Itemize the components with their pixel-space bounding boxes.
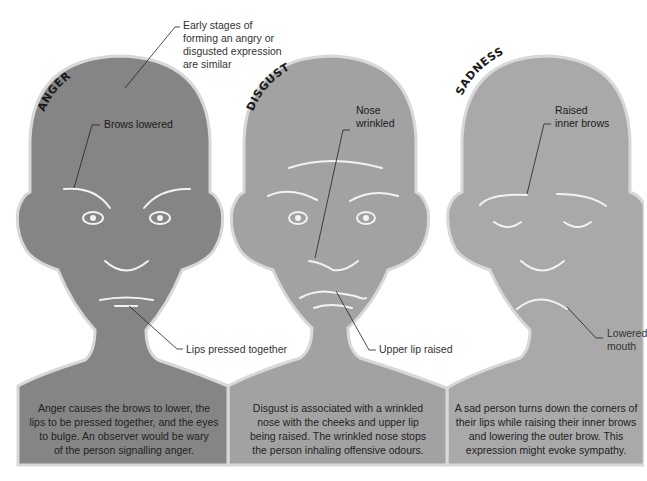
desc-line: of the person signalling anger. [22,443,226,457]
shared-callout-line: are similar [183,58,282,71]
desc-line: lips to be pressed together, and the eye… [22,415,226,429]
callout-mouth-line: mouth [607,340,647,353]
desc-line: the person inhaling offensive odours. [232,443,444,457]
disgust-left-pupil [295,215,301,221]
desc-line: being raised. The wrinkled nose stops [232,429,444,443]
disgust-description: Disgust is associated with a wrinkled no… [232,401,444,457]
desc-line: and lowering the outer brow. This [448,429,644,443]
desc-line: expression might evoke sympathy. [448,443,644,457]
callout-nose-line: wrinkled [356,117,395,130]
disgust-right-pupil [363,215,369,221]
callout-mouth-line: Lowered [607,327,647,340]
anger-left-pupil [90,215,96,221]
sadness-description: A sad person turns down the corners of t… [448,401,644,457]
callout-lips-pressed: Lips pressed together [186,343,287,356]
callout-nose-line: Nose [356,104,395,117]
desc-line: their lips while raising their inner bro… [448,415,644,429]
desc-line: Anger causes the brows to lower, the [22,401,226,415]
callout-brows-line: inner brows [555,117,609,130]
callout-brows-line: Raised [555,104,609,117]
callout-lowered-mouth: Lowered mouth [607,327,647,353]
shared-callout-line: disgusted expression [183,45,282,58]
desc-line: Disgust is associated with a wrinkled [232,401,444,415]
callout-brows-lowered: Brows lowered [104,118,173,131]
shared-callout-line: forming an angry or [183,32,282,45]
anger-right-pupil [157,215,163,221]
desc-line: to bulge. An observer would be wary [22,429,226,443]
anger-description: Anger causes the brows to lower, the lip… [22,401,226,457]
callout-raised-inner-brows: Raised inner brows [555,104,609,130]
shared-callout: Early stages of forming an angry or disg… [183,19,282,71]
desc-line: nose with the cheeks and upper lip [232,415,444,429]
callout-nose-wrinkled: Nose wrinkled [356,104,395,130]
callout-upper-lip-raised: Upper lip raised [379,343,453,356]
shared-callout-line: Early stages of [183,19,282,32]
desc-line: A sad person turns down the corners of [448,401,644,415]
